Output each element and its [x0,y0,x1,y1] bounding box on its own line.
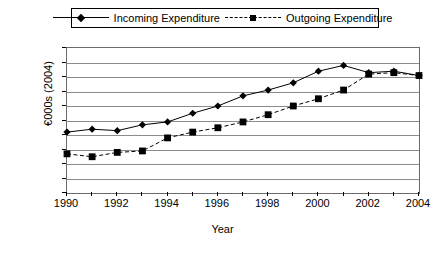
data-point-marker [164,118,171,125]
x-tick-label: 1990 [54,198,78,209]
data-point-marker [315,95,322,102]
data-point-marker [365,71,372,78]
diamond-marker-icon [76,14,84,22]
data-point-marker [164,135,171,142]
series-line-square [67,73,419,157]
legend-swatch-outgoing [225,12,281,24]
x-tick-label: 1992 [104,198,128,209]
x-tick-mark [141,192,142,196]
x-tick-label: 1996 [205,198,229,209]
data-point-marker [315,68,322,75]
x-tick-mark [317,192,318,196]
data-point-marker [290,79,297,86]
y-axis-ticks: 0500100015002000250030003500400045005000 [0,0,62,256]
x-tick-mark [192,192,193,196]
data-point-marker [416,72,423,79]
data-point-marker [265,86,272,93]
x-axis-title: Year [0,224,445,235]
x-tick-mark [292,192,293,196]
x-tick-label: 2000 [305,198,329,209]
x-tick-mark [418,192,419,196]
data-point-marker [340,62,347,69]
x-tick-mark [217,192,218,196]
data-point-marker [340,87,347,94]
data-point-marker [265,111,272,118]
data-point-marker [189,110,196,117]
x-tick-mark [167,192,168,196]
x-tick-mark [267,192,268,196]
series-lines [67,48,419,193]
data-point-marker [89,153,96,160]
data-point-marker [390,69,397,76]
x-tick-mark [116,192,117,196]
legend-label-incoming: Incoming Expenditure [109,13,225,24]
x-tick-label: 1998 [255,198,279,209]
x-tick-label: 2002 [355,198,379,209]
data-point-marker [114,149,121,156]
data-point-marker [290,103,297,110]
plot-area [66,47,420,194]
data-point-marker [214,102,221,109]
data-point-marker [240,119,247,126]
x-tick-mark [368,192,369,196]
x-tick-mark [66,192,67,196]
chart-root: Incoming Expenditure Outgoing Expenditur… [0,0,445,256]
data-point-marker [214,124,221,131]
legend-item-incoming: Incoming Expenditure [53,12,225,24]
x-tick-mark [242,192,243,196]
square-marker-icon [250,15,256,21]
x-tick-label: 2004 [406,198,430,209]
chart-legend: Incoming Expenditure Outgoing Expenditur… [71,8,379,28]
x-tick-mark [393,192,394,196]
x-tick-mark [343,192,344,196]
data-point-marker [189,129,196,136]
legend-item-outgoing: Outgoing Expenditure [225,12,397,24]
x-tick-mark [91,192,92,196]
data-point-marker [114,127,121,134]
data-point-marker [139,148,146,155]
data-point-marker [239,92,246,99]
legend-label-outgoing: Outgoing Expenditure [281,13,397,24]
data-point-marker [64,150,71,157]
data-point-marker [139,121,146,128]
x-tick-label: 1994 [154,198,178,209]
data-point-marker [89,126,96,133]
